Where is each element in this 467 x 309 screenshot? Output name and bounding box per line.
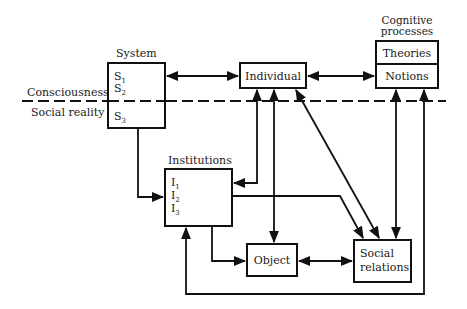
system-node: System S1 S2 S3 [108,47,165,128]
edge-system-institutions [138,128,163,197]
cognitive-title-line2: processes [381,25,434,37]
social-relations-line1: Social [360,247,394,260]
theories-label: Theories [383,47,432,60]
individual-label: Individual [245,70,301,83]
institutions-node: Institutions I1 I2 I3 [165,154,232,226]
edge-individual-social [296,90,379,238]
edge-institutions-social [232,196,363,238]
edge-institutions-object [212,226,245,261]
cognitive-processes-node: Cognitive processes Theories Notions [376,14,438,88]
system-title: System [116,47,157,60]
consciousness-label: Consciousness [27,86,109,99]
social-reality-label: Social reality [31,106,105,119]
social-relations-line2: relations [360,261,409,274]
social-relations-node: Social relations [354,240,411,282]
edge-individual-institutions [234,90,257,183]
institutions-title: Institutions [168,154,232,167]
individual-node: Individual [240,63,306,88]
object-node: Object [247,244,297,276]
object-label: Object [254,254,291,267]
diagram-canvas: Consciousness Social reality System S1 S… [0,0,467,309]
notions-label: Notions [385,70,429,83]
